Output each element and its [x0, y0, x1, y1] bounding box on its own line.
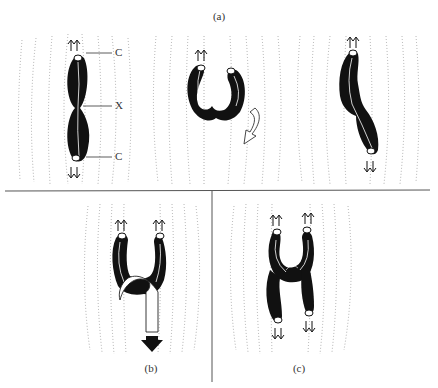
rotation-arrow-icon	[244, 108, 259, 144]
pull-down-arrow-icon	[141, 336, 163, 352]
figure-drawing	[0, 0, 438, 388]
chromosome-a2-u-shape	[187, 50, 259, 144]
spindle-fibres-a2	[153, 36, 281, 184]
horizontal-divider	[5, 190, 430, 191]
chromosome-spindle-figure: (a) (b) (c) C X C	[0, 0, 438, 388]
chromosome-c-interlocked	[266, 213, 315, 339]
chromosome-a1	[67, 40, 112, 178]
chromosome-b	[112, 220, 166, 352]
